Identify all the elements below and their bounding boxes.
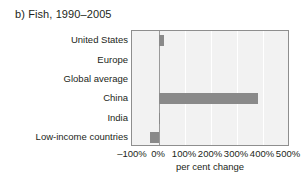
category-label-global-average: Global average (2, 73, 128, 84)
bar-china (159, 93, 258, 104)
fish-percent-change-bar-chart: b) Fish, 1990–2005 United States Europe … (0, 0, 308, 176)
gridline-400 (263, 31, 264, 145)
x-tick-0: 0% (151, 148, 165, 159)
plot-area (131, 30, 289, 146)
x-tick-minus-100: –100% (117, 148, 147, 159)
gridline-0 (159, 31, 160, 145)
y-axis-category-labels: United States Europe Global average Chin… (0, 30, 128, 146)
category-label-china: China (2, 92, 128, 103)
bar-united-states (159, 35, 164, 46)
x-tick-200: 200% (198, 148, 222, 159)
gridline-200 (211, 31, 212, 145)
category-label-united-states: United States (2, 34, 128, 45)
x-axis-tick-labels: –100% 0% 100% 200% 300% 400% 500% (0, 148, 308, 160)
x-tick-500: 500% (276, 148, 300, 159)
x-axis-title: per cent change (131, 161, 289, 172)
x-tick-400: 400% (250, 148, 274, 159)
category-label-india: India (2, 112, 128, 123)
category-label-low-income-countries: Low-income countries (2, 131, 128, 142)
bar-low-income-countries (150, 132, 159, 143)
gridline-100 (185, 31, 186, 145)
chart-title: b) Fish, 1990–2005 (15, 8, 112, 21)
category-label-europe: Europe (2, 54, 128, 65)
bar-india (159, 113, 160, 124)
x-tick-300: 300% (224, 148, 248, 159)
x-tick-100: 100% (172, 148, 196, 159)
gridline-300 (237, 31, 238, 145)
